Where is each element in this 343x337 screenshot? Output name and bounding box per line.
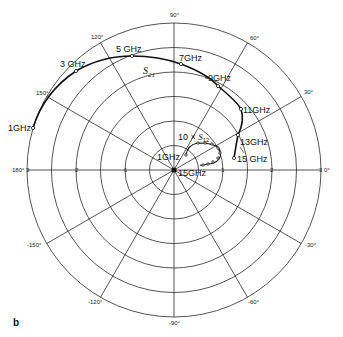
s12-marker [207, 163, 209, 165]
s21-leader-13ghz [240, 147, 244, 153]
s12-marker [212, 161, 214, 163]
angle-label-neg150: -150° [27, 242, 42, 248]
s21-marker-5ghz [130, 54, 133, 57]
s21-marker-9ghz [216, 84, 219, 87]
origin-dot [172, 168, 177, 173]
s12-marker [197, 142, 199, 144]
s21-label-3ghz: 3 GHz [60, 59, 86, 69]
angle-label-30: 30° [304, 89, 314, 95]
angle-label-180: 180° [12, 167, 25, 173]
s12-marker [211, 143, 213, 145]
angle-label-150: 150° [36, 90, 49, 96]
s12-marker [219, 152, 221, 154]
angle-label-neg90: -90° [169, 320, 181, 326]
s21-marker-15ghz [232, 156, 235, 159]
s12-label-15ghz: 15GHz [178, 168, 207, 178]
s21-label-1ghz: 1GHz [8, 123, 32, 133]
radial-tick-right-3: 3 [319, 167, 323, 173]
s12-series-name: 10 × S12 [178, 132, 210, 143]
s21-label-7ghz: 7GHz [179, 53, 203, 63]
angle-label-60: 60° [250, 35, 260, 41]
angle-label-120: 120° [91, 34, 104, 40]
s12-marker-1ghz [185, 154, 187, 156]
panel-label: b [13, 317, 19, 328]
s12-marker [217, 157, 219, 159]
s21-label-5ghz: 5 GHz [116, 44, 142, 54]
s21-label-11ghz: 11GHz [243, 105, 271, 115]
s12-label-1ghz: 1GHz [157, 152, 181, 162]
angle-label-neg60: -60° [248, 299, 260, 305]
angle-label-neg30: -30° [305, 242, 317, 248]
polar-chart: 0° 30° 60° 90° 120° 150° 180° -150° -120… [0, 0, 343, 337]
s12-marker-15ghz [202, 164, 204, 166]
s21-label-9ghz: 9GHz [208, 73, 232, 83]
angle-label-90: 90° [170, 12, 180, 18]
s21-label-13ghz: 13GHz [240, 137, 269, 147]
s21-label-15ghz: 15 GHz [237, 154, 268, 164]
angle-label-neg120: -120° [88, 299, 103, 305]
s12-marker [217, 147, 219, 149]
angle-label-0: 0° [324, 167, 330, 173]
s21-marker-1ghz [31, 126, 34, 129]
s21-series-name: S21 [143, 65, 155, 79]
s21-marker-3ghz [74, 69, 77, 72]
